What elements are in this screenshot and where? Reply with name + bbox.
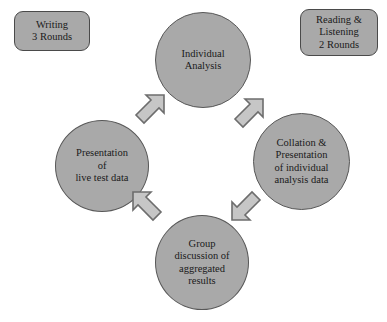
- node-presentation-live-test-data-line-1: Presentation: [76, 147, 128, 160]
- label-box-writing: Writing 3 Rounds: [14, 11, 90, 51]
- diagram-canvas: Writing 3 Rounds Reading & Listening 2 R…: [0, 0, 387, 322]
- arrow-southeast-icon: [229, 93, 269, 133]
- node-collation-presentation-line-3: of individual: [275, 162, 329, 175]
- node-group-discussion: Group discussion of aggregated results: [155, 215, 249, 310]
- node-individual-analysis-line-1: Individual: [181, 48, 224, 61]
- label-box-writing-line-2: 3 Rounds: [32, 31, 72, 44]
- node-individual-analysis-line-2: Analysis: [185, 60, 222, 73]
- label-box-writing-line-1: Writing: [36, 19, 68, 32]
- node-collation-presentation-line-2: Presentation: [276, 149, 328, 162]
- node-collation-presentation-line-1: Collation &: [277, 137, 327, 150]
- label-box-reading-listening-line-1: Reading &: [316, 14, 362, 27]
- node-group-discussion-line-4: results: [188, 275, 215, 288]
- node-presentation-live-test-data-line-3: live test data: [75, 172, 128, 185]
- node-presentation-live-test-data-line-2: of: [98, 160, 107, 173]
- node-collation-presentation-line-4: analysis data: [275, 174, 329, 187]
- arrow-northeast-icon: [130, 89, 170, 129]
- arrow-southwest-icon: [226, 186, 266, 226]
- label-box-reading-listening-line-2: Listening: [319, 26, 359, 39]
- label-box-reading-listening-line-3: 2 Rounds: [319, 39, 359, 52]
- arrow-northwest-icon: [127, 186, 167, 226]
- node-group-discussion-line-1: Group: [189, 238, 216, 251]
- label-box-reading-listening: Reading & Listening 2 Rounds: [300, 9, 378, 56]
- node-group-discussion-line-2: discussion of: [174, 250, 229, 263]
- node-group-discussion-line-3: aggregated: [179, 263, 225, 276]
